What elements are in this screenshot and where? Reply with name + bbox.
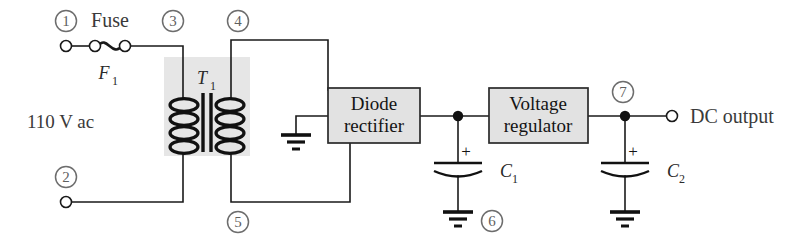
diode-rectifier-label-line2: rectifier [344, 115, 405, 136]
capacitor-c2-subscript: 2 [679, 172, 685, 186]
node-label-6: 6 [488, 213, 496, 229]
fuse-right-pad [120, 41, 131, 52]
node-label-3: 3 [169, 13, 177, 29]
capacitor-c1-subscript: 1 [512, 172, 518, 186]
node-marker-4: 4 [228, 11, 249, 32]
fuse-designator: F [98, 63, 111, 83]
voltage-regulator-label-line2: regulator [504, 115, 573, 136]
junction-dot-c2 [620, 111, 630, 121]
source-label: 110 V ac [27, 111, 94, 132]
node-marker-7: 7 [613, 82, 634, 103]
fuse-label: Fuse [91, 9, 129, 31]
transformer-subscript: 1 [210, 79, 216, 93]
node-marker-6: 6 [482, 211, 503, 232]
node-label-5: 5 [234, 214, 242, 230]
node-label-4: 4 [234, 13, 242, 29]
voltage-regulator-label-line1: Voltage [509, 93, 567, 114]
circuit-diagram: Diode rectifier Voltage regulator + C 1 [0, 0, 794, 248]
junction-dot-c1 [453, 111, 463, 121]
node-marker-2: 2 [56, 167, 77, 188]
node-marker-3: 3 [163, 11, 184, 32]
fuse-subscript: 1 [112, 74, 118, 88]
dc-output-label: DC output [690, 105, 774, 128]
circuit-canvas: Diode rectifier Voltage regulator + C 1 [0, 0, 794, 248]
wire-term2-to-primary-bottom [71, 155, 183, 202]
node-marker-1: 1 [56, 11, 77, 32]
node-marker-5: 5 [228, 212, 249, 233]
fuse-element [98, 43, 122, 50]
dc-output-post[interactable] [667, 111, 678, 122]
capacitor-c2-polarity: + [628, 142, 638, 161]
node-label-2: 2 [62, 169, 70, 185]
diode-rectifier-label-line1: Diode [351, 93, 397, 114]
terminal-1-post[interactable] [61, 41, 72, 52]
node-label-1: 1 [62, 13, 70, 29]
capacitor-c2-symbol [601, 163, 649, 177]
terminal-2-post[interactable] [61, 197, 72, 208]
capacitor-c1-symbol [434, 163, 482, 177]
ground-symbol-rectifier [281, 135, 311, 149]
node-label-7: 7 [619, 84, 627, 100]
ground-symbol-c1 [443, 212, 473, 226]
ground-symbol-c2 [610, 212, 640, 226]
fuse-left-pad [90, 41, 101, 52]
capacitor-c1-polarity: + [461, 142, 471, 161]
wire-rectifier-ground-stub [296, 116, 328, 134]
